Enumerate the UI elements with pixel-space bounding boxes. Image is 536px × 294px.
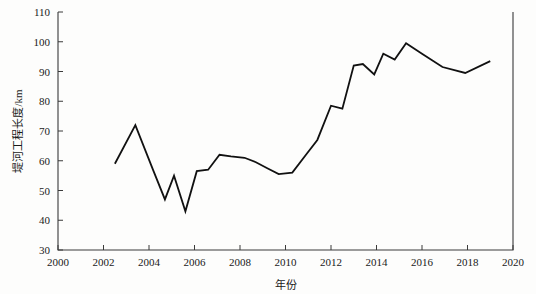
x-tick-label: 2000 — [47, 256, 70, 268]
axis-frame — [58, 12, 513, 250]
y-axis-title: 堤河工程长度/km — [11, 89, 24, 173]
x-axis-title: 年份 — [275, 278, 297, 291]
plot-border — [58, 12, 513, 250]
x-tick-label: 2016 — [411, 256, 434, 268]
x-tick-label: 2010 — [275, 256, 298, 268]
chart-container: 2000200220042006200820102012201420162018… — [0, 0, 536, 294]
y-tick-label: 30 — [39, 244, 51, 256]
data-series-group — [115, 43, 490, 211]
y-tick-label: 90 — [39, 66, 51, 78]
x-tick-label: 2018 — [457, 256, 480, 268]
x-tick-label: 2012 — [320, 256, 342, 268]
x-tick-label: 2004 — [138, 256, 161, 268]
y-tick-label: 40 — [39, 214, 51, 226]
x-axis-tick-labels: 2000200220042006200820102012201420162018… — [47, 256, 525, 268]
y-tick-label: 70 — [39, 125, 51, 137]
x-tick-label: 2006 — [184, 256, 207, 268]
x-tick-label: 2020 — [502, 256, 525, 268]
y-tick-label: 60 — [39, 155, 51, 167]
y-axis-ticks — [58, 12, 63, 250]
series-line — [115, 43, 490, 211]
y-tick-label: 80 — [39, 95, 51, 107]
y-tick-label: 50 — [39, 185, 51, 197]
line-chart: 2000200220042006200820102012201420162018… — [0, 0, 536, 294]
x-tick-label: 2008 — [229, 256, 252, 268]
x-tick-label: 2002 — [93, 256, 115, 268]
x-tick-label: 2014 — [366, 256, 389, 268]
y-tick-label: 110 — [34, 6, 51, 18]
y-axis-tick-labels: 30405060708090100110 — [34, 6, 51, 256]
x-axis-ticks — [58, 245, 513, 250]
y-tick-label: 100 — [34, 36, 51, 48]
